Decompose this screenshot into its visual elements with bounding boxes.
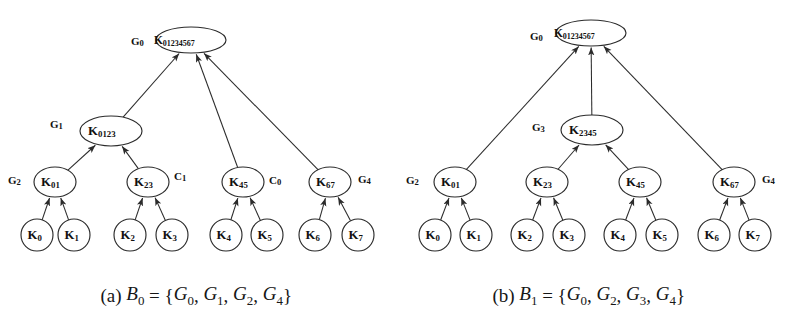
caption-panel-a: (a) B0 = {G0, G1, G2, G4}: [0, 272, 393, 320]
edge-b-k3-to-b-k23: [554, 198, 563, 220]
edge-b-k7-to-b-k67: [740, 198, 749, 220]
edge-b-k2-to-b-k23: [533, 198, 541, 220]
edge-a-k5-to-a-k45: [250, 198, 260, 221]
figure-root: K01234567K0123K01K23K45K67K0K1K2K3K4K5K6…: [0, 0, 785, 325]
caption-separator-0: ,: [194, 285, 204, 307]
edge-a-k01-to-a-k0123: [68, 145, 95, 170]
node-a-k1[interactable]: K1: [58, 219, 90, 251]
caption-equals: = {: [144, 285, 173, 307]
node-a-k7[interactable]: K7: [342, 219, 374, 251]
node-b-k1[interactable]: K1: [460, 219, 492, 251]
caption-close-brace: }: [676, 285, 685, 307]
node-b-k2345[interactable]: K2345: [561, 115, 623, 145]
group-label-a-g0: G0: [131, 35, 144, 48]
edge-a-k23-to-a-k0123: [122, 146, 138, 168]
caption-separator-2: ,: [646, 285, 656, 307]
node-layer-a: K01234567K0123K01K23K45K67K0K1K2K3K4K5K6…: [21, 27, 374, 251]
node-b-k23[interactable]: K23: [526, 167, 568, 197]
node-a-k0[interactable]: K0: [21, 219, 53, 251]
caption-row: (a) B0 = {G0, G1, G2, G4} (b) B1 = {G0, …: [0, 272, 785, 320]
group-label-b-g2: G2: [406, 174, 419, 187]
edge-a-k7-to-a-k67: [338, 197, 350, 220]
caption-member-1: G2: [596, 283, 616, 309]
group-label-b-g0: G0: [530, 30, 543, 43]
caption-panel-b: (b) B1 = {G0, G2, G3, G4}: [393, 272, 785, 320]
node-a-k4[interactable]: K4: [210, 219, 242, 251]
node-a-k3[interactable]: K3: [156, 219, 188, 251]
node-a-k6[interactable]: K6: [299, 219, 331, 251]
group-label-a-g2: G2: [8, 174, 21, 187]
caption-member-0: G0: [174, 283, 194, 309]
caption-member-3: G4: [656, 283, 676, 309]
edge-a-k67-to-a-root: [204, 53, 318, 169]
caption-member-1: G1: [203, 283, 223, 309]
node-a-k2[interactable]: K2: [114, 219, 146, 251]
node-b-k2[interactable]: K2: [511, 219, 543, 251]
edge-a-k2-to-a-k23: [135, 198, 142, 220]
caption-member-0: G0: [567, 283, 587, 309]
edge-a-k1-to-a-k01: [61, 198, 69, 220]
edge-a-k4-to-a-k45: [231, 198, 238, 220]
edge-b-k4-to-b-k45: [626, 198, 634, 220]
node-b-root[interactable]: K01234567: [554, 20, 626, 46]
edge-a-k45-to-a-root: [196, 54, 237, 167]
group-label-a-c1: C1: [174, 170, 186, 183]
group-label-b-g3: G3: [532, 121, 545, 134]
edge-b-k0-to-b-k01: [441, 198, 449, 220]
group-label-a-c0: C0: [269, 174, 281, 187]
node-b-k0[interactable]: K0: [419, 219, 451, 251]
node-b-k5[interactable]: K5: [646, 219, 678, 251]
node-b-k67[interactable]: K67: [713, 167, 755, 197]
diagram-panel-b: K01234567K2345K01K23K45K67K0K1K2K3K4K5K6…: [392, 0, 785, 270]
caption-separator-1: ,: [617, 285, 627, 307]
node-a-k01[interactable]: K01: [34, 167, 76, 197]
caption-equals: = {: [537, 285, 566, 307]
edge-b-k67-to-b-root: [604, 46, 722, 169]
edge-a-k3-to-a-k23: [155, 198, 165, 221]
edge-b-k1-to-b-k01: [461, 198, 470, 220]
node-b-k4[interactable]: K4: [604, 219, 636, 251]
node-a-root[interactable]: K01234567: [154, 27, 226, 53]
caption-separator-0: ,: [587, 285, 597, 307]
node-b-k6[interactable]: K6: [698, 219, 730, 251]
node-b-k01[interactable]: K01: [434, 167, 476, 197]
edge-b-k45-to-b-k2345: [606, 145, 629, 170]
group-label-b-g4: G4: [762, 173, 776, 186]
caption-set-symbol: B0: [126, 283, 144, 309]
edge-a-k0-to-a-k01: [42, 198, 49, 220]
edge-b-k01-to-b-root: [466, 46, 578, 169]
caption-member-2: G2: [233, 283, 253, 309]
caption-separator-1: ,: [224, 285, 234, 307]
caption-close-brace: }: [283, 285, 292, 307]
caption-prefix: (a): [100, 285, 126, 307]
caption-set-symbol: B1: [519, 283, 537, 309]
group-label-a-g1: G1: [50, 118, 63, 131]
node-a-k67[interactable]: K67: [309, 167, 351, 197]
node-a-k45[interactable]: K45: [222, 167, 264, 197]
node-b-k3[interactable]: K3: [553, 219, 585, 251]
caption-separator-2: ,: [253, 285, 263, 307]
edge-b-k23-to-b-k2345: [558, 145, 579, 169]
node-b-k45[interactable]: K45: [619, 167, 661, 197]
edge-a-k6-to-a-k67: [319, 198, 325, 219]
edge-a-k0123-to-a-root: [123, 53, 179, 117]
node-layer-b: K01234567K2345K01K23K45K67K0K1K2K3K4K5K6…: [419, 20, 771, 251]
caption-member-2: G3: [626, 283, 646, 309]
edge-b-k6-to-b-k67: [720, 198, 728, 220]
node-a-k23[interactable]: K23: [127, 167, 169, 197]
node-a-k0123[interactable]: K0123: [80, 116, 142, 146]
edge-b-k5-to-b-k45: [647, 198, 656, 220]
caption-prefix: (b): [492, 285, 519, 307]
group-label-layer-a: G0G1G2C1C0G4: [8, 35, 372, 187]
node-a-k5[interactable]: K5: [251, 219, 283, 251]
caption-member-3: G4: [263, 283, 283, 309]
diagram-panel-a: K01234567K0123K01K23K45K67K0K1K2K3K4K5K6…: [0, 0, 392, 270]
edge-b-k2345-to-b-root: [591, 48, 592, 116]
node-b-k7[interactable]: K7: [739, 219, 771, 251]
group-label-a-g4: G4: [358, 173, 372, 186]
